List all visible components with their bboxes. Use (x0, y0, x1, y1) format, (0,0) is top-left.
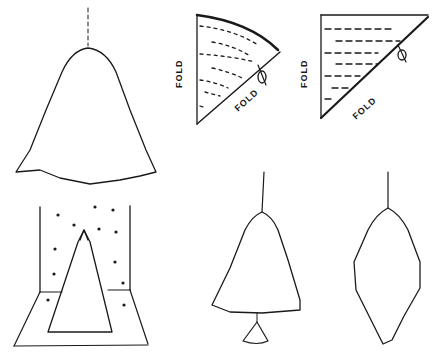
bell-icon (243, 322, 268, 344)
tree-in-box (14, 205, 148, 346)
quarter-circle-fold: FOLD FOLD (174, 15, 280, 124)
hanging-diamond (354, 172, 420, 344)
fold-label-diagonal: FOLD (351, 95, 379, 122)
fold-label-vertical: FOLD (299, 60, 309, 89)
hanging-cone-large (16, 8, 156, 184)
fold-label-vertical: FOLD (174, 60, 184, 89)
fold-label-diagonal: FOLD (233, 87, 261, 114)
scissors-icon (398, 45, 406, 62)
craft-illustration: FOLD FOLD FOLD FOLD (0, 0, 440, 359)
hanging-tree-with-bell (212, 172, 300, 344)
triangle-fold: FOLD FOLD (299, 15, 428, 121)
